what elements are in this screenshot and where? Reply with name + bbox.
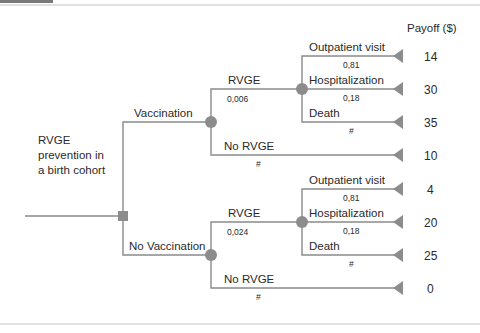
terminal-node-icon [393, 182, 403, 196]
payoff-value: 14 [424, 50, 438, 64]
terminal-node-icon [393, 281, 403, 295]
outcome-label: Outpatient visit [309, 41, 386, 53]
terminal-node-icon [393, 49, 403, 63]
outcome-prob: 0,81 [343, 193, 360, 203]
outcome-prob: 0,81 [343, 60, 360, 70]
outcome-label: Death [309, 107, 340, 119]
chance-node-rvge-no-vaccination [296, 216, 308, 228]
terminal-node-icon [393, 148, 403, 162]
strategy-label-vaccination: Vaccination [134, 107, 193, 119]
terminal-nodes [393, 49, 403, 295]
payoff-header: Payoff ($) [407, 22, 457, 34]
outcome-prob: 0,18 [343, 226, 360, 236]
decision-tree-diagram: RVGE prevention in a birth cohort Payoff… [0, 0, 480, 333]
branch-prob-no-rvge: # [256, 292, 261, 302]
payoff-value: 25 [424, 249, 438, 263]
outcome-label: Hospitalization [309, 74, 384, 86]
chance-node-vaccination [205, 116, 217, 128]
terminal-node-icon [393, 215, 403, 229]
payoff-value: 20 [424, 216, 438, 230]
payoff-value: 10 [424, 149, 438, 163]
outcome-prob: # [349, 126, 354, 136]
payoff-value: 30 [424, 83, 438, 97]
terminal-node-icon [393, 82, 403, 96]
top-bar [0, 0, 53, 3]
branch-label-rvge: RVGE [228, 207, 261, 219]
branch-prob-rvge: 0,024 [227, 227, 249, 237]
root-label-line2: prevention in [38, 149, 104, 161]
branch-label-rvge: RVGE [228, 74, 261, 86]
terminal-node-icon [393, 248, 403, 262]
outcome-prob: # [349, 259, 354, 269]
branch-label-no-rvge: No RVGE [224, 140, 275, 152]
outcome-label: Death [309, 240, 340, 252]
branch-label-no-rvge: No RVGE [224, 273, 275, 285]
payoff-value: 35 [424, 116, 438, 130]
root-label-line3: a birth cohort [38, 164, 106, 176]
decision-node [118, 211, 128, 221]
payoff-value: 0 [427, 282, 434, 296]
root-label-line1: RVGE [38, 134, 71, 146]
branch-prob-rvge: 0,006 [227, 94, 249, 104]
chance-node-no-vaccination [205, 249, 217, 261]
payoff-value: 4 [427, 183, 434, 197]
terminal-node-icon [393, 115, 403, 129]
strategy-label-no-vaccination: No Vaccination [129, 240, 206, 252]
chance-node-rvge-vaccination [296, 83, 308, 95]
outcome-label: Hospitalization [309, 207, 384, 219]
outcome-label: Outpatient visit [309, 174, 386, 186]
outcome-prob: 0,18 [343, 93, 360, 103]
branch-prob-no-rvge: # [256, 159, 261, 169]
